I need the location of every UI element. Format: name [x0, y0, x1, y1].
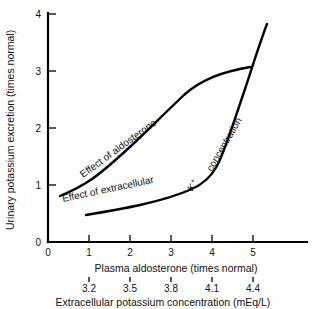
- y-tick-label-4: 4: [35, 9, 41, 20]
- x-secondary-tick-label-3: 3.8: [164, 283, 178, 294]
- y-tick-label-2: 2: [35, 123, 41, 134]
- y-axis-title: Urinary potassium excretion (times norma…: [4, 30, 16, 230]
- x-tick-label-0: 0: [45, 247, 51, 258]
- curve-aldosterone: [60, 67, 250, 196]
- x-tick-label-4: 4: [209, 247, 215, 258]
- y-tick-label-3: 3: [35, 66, 41, 77]
- curve-label-concentration: concentration: [204, 115, 244, 173]
- x-secondary-tick-label-2: 3.5: [123, 283, 137, 294]
- x-secondary-tick-label-5: 4.4: [246, 283, 260, 294]
- x-axis-title-primary: Plasma aldosterone (times normal): [95, 262, 258, 274]
- chart-figure: 4 3 2 1 0 0 1 2 3 4 5 Effect of aldoster…: [0, 0, 314, 309]
- y-tick-label-1: 1: [35, 180, 41, 191]
- chart-svg: 4 3 2 1 0 0 1 2 3 4 5 Effect of aldoster…: [0, 0, 314, 309]
- x-axis-title-secondary: Extracellular potassium concentration (m…: [56, 296, 271, 308]
- x-tick-label-3: 3: [168, 247, 174, 258]
- x-tick-label-2: 2: [127, 247, 133, 258]
- curve-label-aldosterone: Effect of aldosterone: [78, 117, 159, 180]
- curve-label-concentration-group: concentration: [204, 115, 244, 173]
- curve-label-aldosterone-group: Effect of aldosterone: [78, 117, 159, 180]
- x-secondary-tick-label-1: 3.2: [82, 283, 96, 294]
- y-axis-title-group: Urinary potassium excretion (times norma…: [4, 30, 16, 230]
- y-tick-label-0: 0: [35, 237, 41, 248]
- x-tick-label-5: 5: [250, 247, 256, 258]
- x-tick-label-1: 1: [86, 247, 92, 258]
- x-secondary-tick-label-4: 4.1: [205, 283, 219, 294]
